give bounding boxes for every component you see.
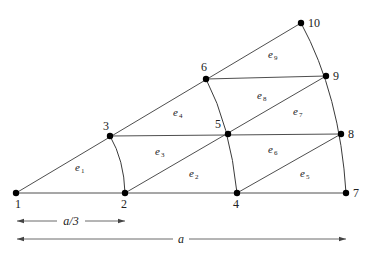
node-dot (203, 76, 209, 82)
dimension-label: a/3 (63, 214, 78, 228)
node-label: 3 (103, 119, 109, 133)
element-label-e1: e1 (75, 161, 85, 175)
element-label-e8: e8 (257, 89, 267, 103)
node-label: 10 (308, 16, 320, 30)
edge-1-10 (16, 23, 301, 193)
node-label: 4 (233, 197, 239, 211)
element-label-e9: e9 (268, 48, 278, 62)
node-label: 1 (15, 197, 21, 211)
dimension-lines: a/3a (17, 214, 346, 246)
dimension-a-full: a (17, 232, 346, 246)
node-dot (107, 133, 113, 139)
node-dot (122, 190, 128, 196)
node-label: 7 (353, 186, 359, 200)
node-10: 10 (298, 16, 320, 30)
element-labels: e1e2e3e4e5e6e7e8e9 (75, 48, 310, 181)
arc-10-9-8-7 (301, 23, 346, 193)
node-label: 6 (201, 60, 207, 74)
node-dot (225, 131, 231, 137)
edge-4-8 (237, 134, 341, 193)
dimension-a-third: a/3 (17, 214, 125, 228)
mesh-arcs (110, 23, 346, 193)
element-label-e6: e6 (268, 143, 278, 157)
node-dot (234, 190, 240, 196)
node-dot (323, 73, 329, 79)
node-label: 8 (348, 127, 354, 141)
node-6: 6 (201, 60, 209, 82)
arc-6-5-4 (206, 79, 237, 193)
element-label-e2: e2 (189, 167, 199, 181)
element-label-e3: e3 (155, 145, 165, 159)
node-label: 2 (121, 197, 127, 211)
node-4: 4 (233, 190, 240, 211)
node-label: 9 (333, 69, 339, 83)
element-label-e7: e7 (293, 105, 303, 119)
fem-mesh-diagram: 12345678910 e1e2e3e4e5e6e7e8e9 a/3a (0, 0, 370, 261)
node-label: 5 (215, 117, 221, 131)
arc-3-2 (110, 136, 125, 193)
dimension-label: a (178, 232, 184, 246)
node-dot (343, 190, 349, 196)
edge-6-9 (206, 76, 326, 79)
mesh-nodes: 12345678910 (13, 16, 359, 211)
element-label-e5: e5 (300, 167, 310, 181)
node-3: 3 (103, 119, 113, 139)
element-label-e4: e4 (173, 106, 183, 120)
node-2: 2 (121, 190, 128, 211)
node-dot (298, 20, 304, 26)
node-dot (338, 131, 344, 137)
node-dot (13, 190, 19, 196)
